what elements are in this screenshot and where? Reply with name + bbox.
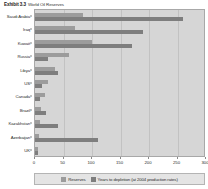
bar-group — [35, 147, 204, 155]
y-axis-label: Kazakhstan — [9, 121, 30, 126]
x-axis-label: 200 — [145, 160, 152, 165]
bar — [35, 84, 42, 88]
x-axis-label: 100 — [88, 160, 95, 165]
legend-item[interactable]: Reserves — [61, 177, 85, 182]
bar-group — [35, 80, 204, 88]
plot-area — [34, 9, 205, 157]
y-axis-label: Brazil — [20, 107, 30, 112]
y-axis-tick — [30, 56, 32, 57]
bar-group — [35, 67, 204, 75]
y-axis-label: Canada — [16, 94, 30, 99]
legend-item[interactable]: Years to depletion (at 2004 production r… — [91, 177, 178, 182]
y-axis-tick — [30, 29, 32, 30]
x-axis-tick — [205, 157, 206, 159]
bar — [35, 71, 58, 75]
chart-title: Exhibit 3.3 World Oil Reserves — [4, 0, 64, 8]
bar — [35, 97, 40, 101]
y-axis-tick — [30, 150, 32, 151]
chart-figure: Exhibit 3.3 World Oil Reserves Saudi Ara… — [0, 0, 208, 189]
x-axis-tick — [63, 157, 64, 159]
legend-label: Reserves — [68, 177, 85, 182]
bar-group — [35, 120, 204, 128]
x-axis-tick — [91, 157, 92, 159]
y-axis-label: Russia — [17, 54, 30, 59]
bar-group — [35, 134, 204, 142]
bar-group — [35, 40, 204, 48]
bar-group — [35, 93, 204, 101]
exhibit-number: Exhibit 3.3 — [4, 2, 26, 7]
x-axis: 050100150200250300 — [34, 157, 205, 169]
legend-swatch-icon — [91, 177, 96, 182]
y-axis-tick — [30, 136, 32, 137]
bar — [35, 111, 46, 115]
y-axis-tick — [30, 123, 32, 124]
x-axis-label: 300 — [202, 160, 208, 165]
x-axis-label: 50 — [60, 160, 65, 165]
x-axis-tick — [34, 157, 35, 159]
page-title: World Oil Reserves — [28, 2, 64, 7]
bar — [35, 124, 58, 128]
x-axis-tick — [148, 157, 149, 159]
x-axis-label: 250 — [173, 160, 180, 165]
x-axis-tick — [177, 157, 178, 159]
x-axis-label: 150 — [116, 160, 123, 165]
bar — [35, 138, 98, 142]
bar — [35, 30, 143, 34]
y-axis-tick — [30, 42, 32, 43]
y-axis-label: Iraq — [23, 27, 30, 32]
bar-group — [35, 53, 204, 61]
bar — [35, 151, 38, 155]
y-axis-tick — [30, 83, 32, 84]
y-axis: Saudi ArabiaIraqKuwaitRussiaLibyaUSCanad… — [0, 9, 32, 157]
y-axis-label: Azerbaijan — [11, 134, 30, 139]
legend-swatch-icon — [61, 177, 66, 182]
y-axis-tick — [30, 96, 32, 97]
y-axis-label: Libya — [20, 67, 30, 72]
bar — [35, 17, 183, 21]
chart-legend: ReservesYears to depletion (at 2004 prod… — [34, 173, 205, 185]
bar — [35, 57, 48, 61]
y-axis-tick — [30, 109, 32, 110]
bar-group — [35, 107, 204, 115]
bars-layer — [35, 10, 204, 156]
legend-label: Years to depletion (at 2004 production r… — [98, 177, 178, 182]
y-axis-label: Kuwait — [18, 40, 30, 45]
x-axis-tick — [120, 157, 121, 159]
y-axis-label: Saudi Arabia — [7, 13, 30, 18]
bar-group — [35, 26, 204, 34]
y-axis-tick — [30, 15, 32, 16]
bar-group — [35, 13, 204, 21]
bar — [35, 44, 132, 48]
x-axis-label: 0 — [33, 160, 35, 165]
y-axis-tick — [30, 69, 32, 70]
